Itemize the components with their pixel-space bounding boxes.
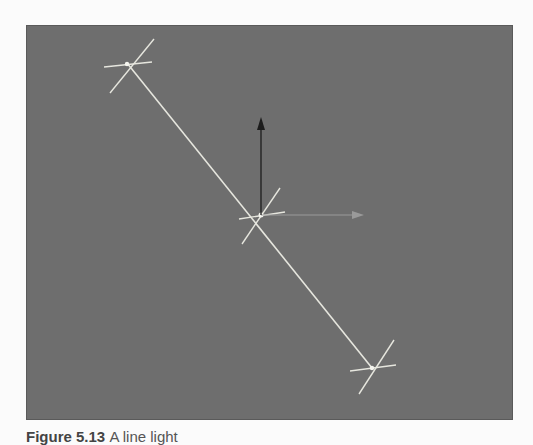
center-pivot-handle[interactable] [239, 188, 285, 244]
x-axis-gizmo[interactable] [261, 211, 364, 219]
3d-viewport[interactable] [26, 25, 513, 420]
caption-text: A line light [109, 428, 177, 445]
scene-canvas [26, 25, 513, 420]
y-axis-gizmo[interactable] [257, 117, 265, 215]
caption-prefix: Figure 5.13 [26, 428, 105, 445]
figure-caption: Figure 5.13 A line light [26, 428, 178, 445]
